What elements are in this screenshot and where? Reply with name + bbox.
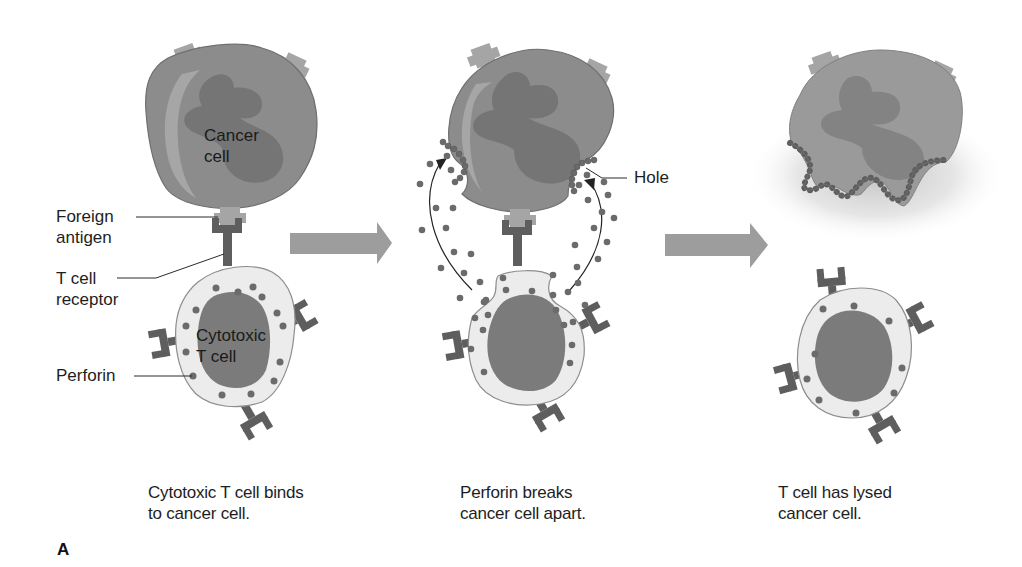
stage-2-illustration [417,41,627,433]
stage-arrow-2 [665,223,768,268]
cancer-cell-label: Cancer cell [204,125,259,167]
perforin-label: Perforin [56,365,116,386]
stage-3-caption-line1: T cell has lysed [778,482,892,503]
stage-3-caption-line2: cancer cell. [778,503,892,524]
cancer-cell-label-line1: Cancer [204,125,259,146]
cytotoxic-t-cell-label-line1: Cytotoxic [196,325,266,346]
stage-1-caption-line1: Cytotoxic T cell binds [148,482,304,503]
t-cell-3-nucleus [815,311,892,402]
cancer-cell-label-line2: cell [204,146,259,167]
stage-3-illustration [746,49,1006,445]
cytotoxic-t-cell-diagram: Cancer cell Foreign antigen T cell recep… [0,0,1022,567]
cytotoxic-t-cell-label-line2: T cell [196,346,266,367]
t-cell-receptor-label: T cell receptor [56,268,118,310]
cytotoxic-t-cell-label: Cytotoxic T cell [196,325,266,367]
foreign-antigen-label-line1: Foreign [56,206,114,227]
foreign-antigen-label: Foreign antigen [56,206,114,248]
stage-3-caption: T cell has lysed cancer cell. [778,482,892,524]
stage-2-caption-line2: cancer cell apart. [460,503,586,524]
hole-label: Hole [634,167,669,188]
t-cell-receptor-label-line2: receptor [56,289,118,310]
stage-arrow-1 [290,222,392,264]
foreign-antigen-label-line2: antigen [56,227,114,248]
stage-1-caption: Cytotoxic T cell binds to cancer cell. [148,482,304,524]
stage-2-caption-line1: Perforin breaks [460,482,586,503]
stage-2-caption: Perforin breaks cancer cell apart. [460,482,586,524]
stage-1-caption-line2: to cancer cell. [148,503,304,524]
t-cell-receptor-1 [212,218,242,266]
t-cell-receptor-label-line1: T cell [56,268,118,289]
stage-1-illustration [117,41,319,441]
panel-letter: A [57,540,69,560]
